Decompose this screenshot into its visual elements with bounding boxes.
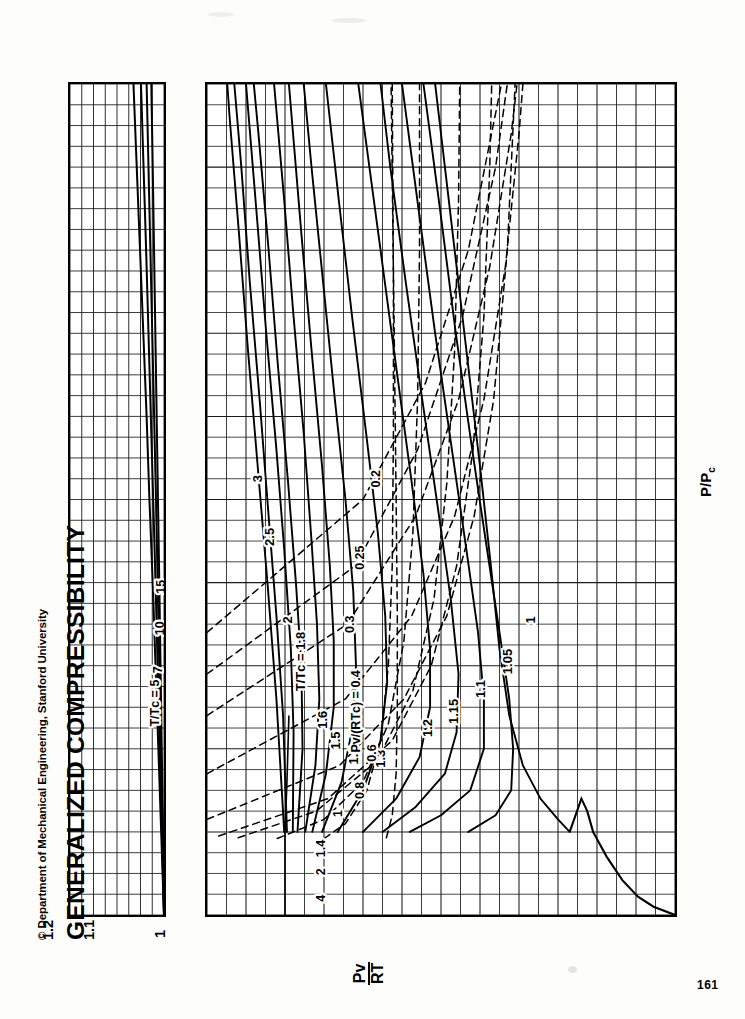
svg-text:T/Tᴄ = 1.8: T/Tᴄ = 1.8	[293, 632, 308, 692]
svg-text:0.2: 0.2	[369, 470, 383, 487]
svg-text:1: 1	[523, 616, 538, 623]
y-axis-title-numerator: Pv	[352, 962, 370, 985]
svg-text:1.4: 1.4	[314, 840, 328, 857]
x-axis-title-subscript: c	[706, 467, 717, 473]
scan-artifact	[208, 12, 234, 17]
x-axis-title: P/Pc	[697, 467, 717, 497]
x-axis-title-text: P/P	[697, 473, 714, 497]
scan-artifact	[332, 18, 366, 23]
svg-text:1.15: 1.15	[446, 699, 461, 724]
svg-text:0.25: 0.25	[353, 545, 367, 569]
svg-text:1.5: 1.5	[328, 731, 343, 749]
svg-text:1.2: 1.2	[420, 719, 435, 737]
svg-text:15: 15	[154, 580, 164, 594]
inset-ytick-1: 1	[152, 930, 168, 938]
y-axis-title-denominator: RT	[370, 962, 386, 985]
y-axis-title: Pv RT	[352, 962, 387, 985]
svg-text:2: 2	[280, 616, 295, 623]
svg-text:T/Tᴄ = 5: T/Tᴄ = 5	[148, 680, 162, 727]
svg-text:Pv/(RTᴄ) = 0.4: Pv/(RTᴄ) = 0.4	[349, 670, 363, 752]
page-number: 161	[697, 978, 719, 992]
svg-text:0.3: 0.3	[343, 615, 357, 632]
copyright-notice: © Department of Mechanical Engineering, …	[36, 609, 48, 940]
svg-text:2.5: 2.5	[262, 528, 277, 546]
svg-text:1.1: 1.1	[473, 680, 488, 698]
scan-artifact	[568, 966, 577, 973]
main-chart-plot: T/Tᴄ = 1.8T/Tᴄ = 1.8222.52.5331.61.61.51…	[207, 84, 675, 915]
svg-text:7: 7	[151, 666, 164, 673]
svg-text:4: 4	[314, 895, 328, 902]
svg-text:0.6: 0.6	[365, 744, 379, 761]
svg-text:1.05: 1.05	[500, 649, 515, 674]
page-canvas: T/Tᴄ = 5T/Tᴄ = 57710101515 1.2 1.1 1 T/T…	[0, 0, 745, 1019]
svg-text:0.8: 0.8	[353, 782, 367, 799]
main-chart-frame: T/Tᴄ = 1.8T/Tᴄ = 1.8222.52.5331.61.61.51…	[205, 82, 677, 917]
svg-text:1.6: 1.6	[315, 711, 330, 729]
svg-text:2: 2	[314, 868, 328, 875]
svg-text:10: 10	[153, 621, 164, 635]
svg-text:3: 3	[250, 475, 265, 482]
page-title: GENERALIZED COMPRESSIBILITY	[62, 525, 90, 940]
svg-text:1: 1	[331, 810, 345, 817]
